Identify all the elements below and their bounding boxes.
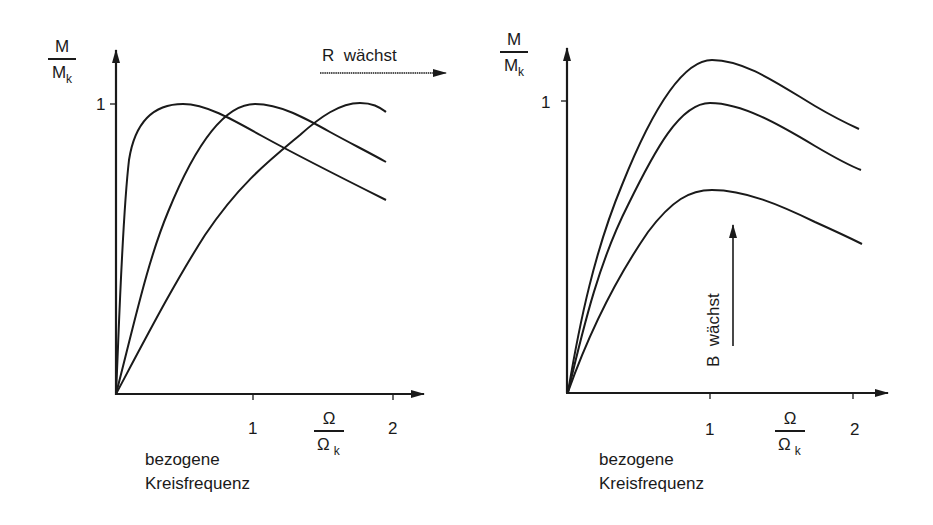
fraction-bar: [500, 51, 528, 53]
left-curve-r-small: [116, 104, 386, 394]
right-chart: [561, 48, 888, 399]
left-x-tick-label-2: 2: [388, 420, 397, 437]
left-x-caption-line1: bezogene: [145, 451, 220, 468]
r-waechst-label: R wächst: [322, 47, 397, 64]
right-y-label-numerator: M: [500, 31, 528, 49]
fraction-bar: [775, 430, 805, 432]
right-x-caption-line2: Kreisfrequenz: [599, 475, 704, 492]
left-chart: [110, 50, 446, 400]
right-y-axis-label: M Mk: [500, 31, 528, 76]
right-x-label-numerator: Ω: [775, 410, 805, 428]
right-x-tick-label-1: 1: [705, 421, 714, 438]
fraction-bar: [48, 58, 76, 60]
right-y-label-denominator: Mk: [500, 57, 528, 76]
left-curve-r-medium: [116, 104, 386, 394]
left-y-label-denominator: Mk: [48, 64, 76, 83]
right-x-tick-label-2: 2: [850, 421, 859, 438]
right-x-caption-line1: bezogene: [599, 451, 674, 468]
left-curve-r-large: [116, 103, 386, 394]
right-x-axis-label: Ω Ωk: [775, 410, 805, 455]
left-x-label-denominator: Ωk: [314, 436, 344, 455]
left-y-tick-label-1: 1: [96, 96, 105, 113]
right-y-tick-label-1: 1: [541, 94, 550, 111]
left-y-label-numerator: M: [48, 38, 76, 56]
right-x-label-denominator: Ωk: [775, 436, 805, 455]
left-y-axis-label: M Mk: [48, 38, 76, 83]
left-x-tick-label-1: 1: [248, 420, 257, 437]
left-x-axis-label: Ω Ωk: [314, 410, 344, 455]
left-x-caption-line2: Kreisfrequenz: [145, 475, 250, 492]
b-waechst-label: B wächst: [704, 293, 724, 367]
fraction-bar: [314, 430, 344, 432]
left-x-label-numerator: Ω: [314, 410, 344, 428]
